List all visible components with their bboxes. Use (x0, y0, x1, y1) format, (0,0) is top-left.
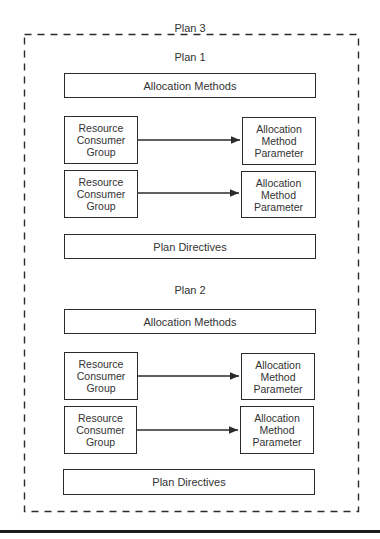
plan-1-allocation-method-parameter-1: Allocation Method Parameter (242, 117, 316, 165)
line: Resource (77, 358, 125, 370)
plan-directives-label: Plan Directives (153, 241, 226, 253)
plan-1-plan-directives-box: Plan Directives (64, 234, 316, 259)
line: Allocation (254, 123, 303, 135)
allocation-methods-label: Allocation Methods (144, 316, 237, 328)
plan-2-allocation-method-parameter-1: Allocation Method Parameter (241, 353, 315, 400)
plan-1-resource-consumer-group-1: Resource Consumer Group (64, 116, 138, 164)
line: Consumer (76, 424, 124, 436)
plan-1-resource-consumer-group-2: Resource Consumer Group (64, 170, 138, 218)
line: Allocation (252, 412, 301, 424)
line: Consumer (77, 370, 125, 382)
line: Resource (77, 122, 125, 134)
line: Consumer (77, 188, 125, 200)
line: Resource (77, 176, 125, 188)
plan-2-allocation-method-parameter-2: Allocation Method Parameter (240, 406, 314, 454)
line: Group (76, 436, 124, 448)
line: Method (254, 135, 303, 147)
line: Group (77, 146, 125, 158)
plan-1-allocation-methods-box: Allocation Methods (64, 73, 316, 98)
plan-directives-label: Plan Directives (152, 476, 225, 488)
line: Method (252, 424, 301, 436)
plan-2-resource-consumer-group-1: Resource Consumer Group (64, 352, 138, 400)
line: Parameter (253, 383, 302, 395)
line: Consumer (77, 134, 125, 146)
line: Method (253, 371, 302, 383)
plan-2-label: Plan 2 (150, 284, 230, 296)
line: Parameter (254, 201, 303, 213)
plan-3-label: Plan 3 (150, 22, 230, 34)
line: Resource (76, 412, 124, 424)
plan-1-label: Plan 1 (150, 51, 230, 63)
bottom-divider (0, 530, 380, 533)
allocation-methods-label: Allocation Methods (144, 80, 237, 92)
line: Group (77, 200, 125, 212)
plan-2-resource-consumer-group-2: Resource Consumer Group (64, 406, 137, 454)
line: Allocation (253, 359, 302, 371)
line: Parameter (254, 147, 303, 159)
plan-2-allocation-methods-box: Allocation Methods (64, 309, 316, 334)
line: Method (254, 189, 303, 201)
line: Parameter (252, 436, 301, 448)
line: Allocation (254, 177, 303, 189)
line: Group (77, 382, 125, 394)
plan-1-allocation-method-parameter-2: Allocation Method Parameter (241, 171, 316, 218)
plan-2-plan-directives-box: Plan Directives (63, 469, 315, 495)
